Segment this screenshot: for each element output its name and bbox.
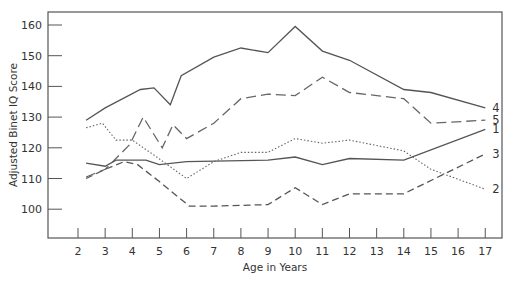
x-tick-label: 7 — [210, 245, 217, 258]
series-line-3 — [86, 154, 485, 206]
y-tick-label: 100 — [21, 203, 42, 216]
series-line-1 — [86, 129, 485, 166]
x-axis: 234567891011121314151617 — [75, 228, 493, 258]
y-axis: 100110120130140150160 — [21, 19, 62, 216]
series-line-4 — [86, 27, 485, 121]
iq-line-chart: 100110120130140150160 234567891011121314… — [0, 0, 512, 283]
x-tick-label: 14 — [397, 245, 411, 258]
series-lines — [86, 27, 485, 207]
x-tick-label: 17 — [478, 245, 492, 258]
y-tick-label: 150 — [21, 50, 42, 63]
y-tick-label: 120 — [21, 142, 42, 155]
x-tick-label: 2 — [75, 245, 82, 258]
y-tick-label: 140 — [21, 80, 42, 93]
series-label-5: 5 — [492, 113, 499, 127]
x-tick-label: 13 — [370, 245, 384, 258]
x-tick-label: 9 — [265, 245, 272, 258]
x-tick-label: 8 — [237, 245, 244, 258]
series-labels: 12345 — [492, 101, 499, 196]
x-tick-label: 16 — [451, 245, 465, 258]
y-axis-title: Adjusted Binet IQ Score — [7, 63, 19, 187]
y-tick-label: 110 — [21, 173, 42, 186]
series-label-3: 3 — [492, 147, 499, 161]
x-tick-label: 15 — [424, 245, 438, 258]
x-tick-label: 4 — [129, 245, 136, 258]
series-line-2 — [86, 123, 485, 189]
y-tick-label: 160 — [21, 19, 42, 32]
x-tick-label: 3 — [102, 245, 109, 258]
x-tick-label: 12 — [343, 245, 357, 258]
y-tick-label: 130 — [21, 111, 42, 124]
x-tick-label: 6 — [183, 245, 190, 258]
x-axis-title: Age in Years — [243, 261, 307, 273]
x-tick-label: 10 — [288, 245, 302, 258]
x-tick-label: 5 — [156, 245, 163, 258]
x-tick-label: 11 — [315, 245, 329, 258]
series-label-2: 2 — [492, 182, 499, 196]
